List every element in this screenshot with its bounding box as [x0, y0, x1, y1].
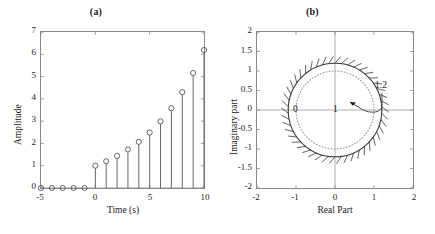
panel-a-ytick-3: 3	[20, 114, 36, 124]
panel-b-ytick-neg1p5: -1.5	[230, 162, 252, 172]
panel-a-ytick-1: 1	[20, 159, 36, 169]
panel-a-ytick-0: 0	[20, 181, 36, 191]
panel-a-xtick-5: 5	[140, 192, 160, 202]
panel-a-ytick-2: 2	[20, 137, 36, 147]
panel-b-xtick-0: 0	[325, 192, 345, 202]
panel-a-ytick-5: 5	[20, 70, 36, 80]
panel-a-x-axis-label: Time (s)	[63, 205, 183, 215]
panel-a-plot-area	[40, 31, 205, 189]
panel-b-title: (b)	[220, 6, 405, 17]
panel-b-xtick-neg1: -1	[285, 192, 305, 202]
panel-b-ytick-2: 2	[230, 25, 252, 35]
panel-b-xtick-neg2: -2	[246, 192, 266, 202]
panel-b-ytick-neg2: -2	[230, 181, 252, 191]
panel-b-xtick-2: 2	[404, 192, 424, 202]
figure-container: (a) Amplitude 7 6 5 4 3 2 1 0 -5 0 5 10 …	[0, 0, 435, 234]
panel-b-ytick-0p5: 0.5	[230, 84, 252, 94]
panel-b-x-axis-label: Real Part	[275, 205, 395, 215]
panel-b-origin-label: 0	[293, 104, 298, 114]
panel-a-xtick-neg5: -5	[30, 192, 50, 202]
panel-a-ytick-7: 7	[20, 25, 36, 35]
panel-a-xtick-0: 0	[85, 192, 105, 202]
panel-a-xtick-10: 10	[195, 192, 215, 202]
panel-a: (a) Amplitude 7 6 5 4 3 2 1 0 -5 0 5 10 …	[0, 0, 218, 234]
panel-b-xtick-1: 1	[364, 192, 384, 202]
panel-a-ytick-6: 6	[20, 47, 36, 57]
panel-a-title: (a)	[6, 6, 186, 17]
panel-b-ytick-1p5: 1.5	[230, 45, 252, 55]
panel-b-ytick-1: 1	[230, 64, 252, 74]
panel-a-ytick-4: 4	[20, 92, 36, 102]
panel-b: (b) Imaginary part 2 1.5 1 0.5 0 -0.5 -1…	[218, 0, 435, 234]
panel-b-radius-pointer	[338, 85, 398, 120]
panel-b-ytick-0: 0	[230, 103, 252, 113]
panel-b-ytick-neg1: -1	[230, 142, 252, 152]
panel-a-plot-svg	[41, 32, 204, 188]
panel-b-ytick-neg0p5: -0.5	[230, 123, 252, 133]
